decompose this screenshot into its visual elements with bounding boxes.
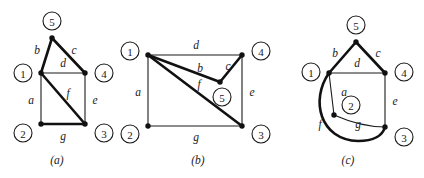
edge-label-d: d [193, 39, 199, 51]
node-label-1: 1 [127, 46, 133, 58]
edge-label-a: a [28, 94, 34, 106]
edge-f [41, 73, 85, 124]
node-label-5: 5 [49, 16, 55, 28]
edge-label-e: e [249, 86, 254, 98]
panel-caption-panel-c: (c) [342, 154, 355, 167]
node-label-2: 2 [348, 100, 354, 112]
graph-figure-svg: abcdefg51423(a)adbcefg14523(b)bcdeafg514… [0, 0, 424, 178]
edge-label-f: f [197, 78, 202, 91]
edge-label-d: d [354, 57, 360, 69]
edge-label-c: c [71, 44, 76, 56]
edge-label-d: d [60, 57, 66, 69]
edge-label-b: b [332, 47, 338, 59]
edge-label-a: a [341, 86, 347, 98]
panel-b: adbcefg14523(b) [121, 39, 270, 167]
edge-label-b: b [197, 62, 203, 74]
panel-caption-panel-a: (a) [50, 154, 64, 167]
node-label-2: 2 [127, 129, 133, 141]
vertex-dot-3 [82, 121, 87, 126]
edge-label-f: f [66, 87, 71, 100]
node-label-5: 5 [219, 92, 225, 104]
edge-label-e: e [92, 94, 97, 106]
vertex-dot-3 [239, 123, 244, 128]
vertex-dot-5 [217, 79, 222, 84]
node-label-4: 4 [101, 68, 107, 80]
panel-caption-panel-b: (b) [191, 154, 205, 167]
vertex-dot-5 [49, 35, 54, 40]
edge-label-c: c [225, 60, 230, 72]
edge-b [148, 55, 220, 82]
node-label-1: 1 [20, 68, 26, 80]
node-label-4: 4 [401, 67, 407, 79]
vertex-dot-4 [239, 52, 244, 57]
node-label-5: 5 [353, 20, 359, 32]
vertex-dot-2 [331, 112, 336, 117]
edge-label-g: g [355, 118, 361, 131]
edge-label-c: c [375, 47, 380, 59]
edge-b [41, 38, 52, 73]
edge-label-e: e [392, 95, 397, 107]
vertex-dot-3 [382, 124, 387, 129]
vertex-dot-4 [382, 70, 387, 75]
vertex-dot-1 [326, 70, 331, 75]
vertex-dot-1 [38, 70, 43, 75]
edge-label-b: b [34, 44, 40, 56]
edge-a [329, 73, 334, 115]
edge-c [220, 55, 242, 82]
node-label-4: 4 [258, 46, 264, 58]
node-label-3: 3 [101, 128, 107, 140]
vertex-dot-4 [82, 70, 87, 75]
node-label-3: 3 [258, 129, 264, 141]
vertex-dot-5 [353, 39, 358, 44]
vertex-dot-2 [38, 121, 43, 126]
node-label-3: 3 [401, 132, 407, 144]
edge-label-a: a [135, 86, 141, 98]
edge-c [52, 38, 85, 73]
panel-a: abcdefg51423(a) [14, 12, 113, 167]
panel-c: bcdeafg51423(c) [302, 16, 413, 167]
node-label-1: 1 [308, 67, 314, 79]
edge-c [356, 42, 385, 73]
edge-label-g: g [193, 131, 199, 144]
graph-figure-container: abcdefg51423(a)adbcefg14523(b)bcdeafg514… [0, 0, 424, 178]
vertex-dot-1 [145, 52, 150, 57]
edge-label-g: g [60, 130, 66, 143]
vertex-dot-2 [145, 123, 150, 128]
node-label-2: 2 [20, 128, 26, 140]
